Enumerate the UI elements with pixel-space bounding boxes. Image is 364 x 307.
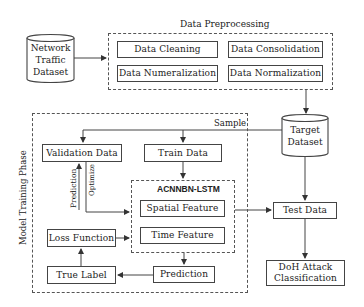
source-label-3: Dataset [27, 66, 74, 78]
train-data: Train Data [144, 144, 222, 162]
time-feature: Time Feature [140, 227, 225, 244]
preprocessing-title: Data Preprocessing [180, 19, 270, 30]
training-phase-title: Model Training Phase [18, 150, 28, 245]
sample-label: Sample [214, 118, 246, 129]
output-label-2: Classification [274, 273, 337, 284]
target-label-2: Dataset [282, 136, 328, 148]
network-traffic-dataset: Network Traffic Dataset [27, 40, 74, 82]
step-data-numeralization: Data Numeralization [117, 65, 218, 82]
loss-function: Loss Function [47, 229, 116, 247]
output-label-1: DoH Attack [279, 262, 333, 273]
true-label: True Label [47, 266, 116, 284]
step-data-normalization: Data Normalization [228, 65, 323, 82]
step-data-consolidation: Data Consolidation [228, 41, 323, 58]
optimize-edge-label: Optimize [88, 164, 96, 196]
target-label-1: Target [282, 124, 328, 136]
source-label-1: Network [27, 42, 74, 54]
target-dataset: Target Dataset [282, 121, 328, 155]
spatial-feature: Spatial Feature [140, 200, 225, 217]
doh-attack-classification: DoH Attack Classification [266, 260, 345, 286]
source-label-2: Traffic [27, 54, 74, 66]
model-title: ACNNBN-LSTM [157, 184, 220, 195]
prediction-edge-label: Prediction [69, 169, 78, 208]
prediction-box: Prediction [153, 266, 215, 283]
step-data-cleaning: Data Cleaning [117, 41, 218, 58]
test-data: Test Data [273, 202, 337, 219]
validation-data: Validation Data [42, 144, 122, 162]
